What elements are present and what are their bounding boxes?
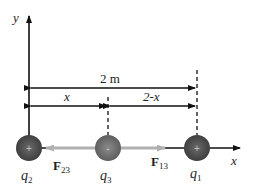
charge-q2-label: q2 [21, 168, 33, 185]
dimension-left: x [31, 89, 106, 106]
charge-q3: - q3 [95, 135, 121, 185]
charge-q3-sign: - [106, 143, 109, 154]
charge-q2-sign: + [26, 143, 32, 154]
charge-q2: + q2 [16, 135, 42, 185]
charge-q1-sign: + [194, 143, 200, 154]
force-F23-label: F23 [53, 158, 70, 175]
dimension-total-label: 2 m [100, 71, 120, 86]
force-F13-label: F13 [151, 154, 168, 171]
charge-q3-label: q3 [100, 168, 112, 185]
y-axis-label: y [11, 10, 19, 25]
force-F23: F23 [46, 148, 96, 175]
charge-q1-label: q1 [190, 166, 202, 183]
dimension-left-label: x [63, 89, 70, 104]
dimension-total: 2 m [31, 71, 195, 88]
charge-q1: + q1 [184, 135, 210, 183]
x-axis-label: x [230, 153, 237, 168]
y-axis: y [11, 10, 29, 148]
dimension-right: 2-x [110, 89, 195, 106]
charge-diagram: y x 2 m x 2-x F23 F13 + q2 - q3 [0, 0, 253, 187]
dimension-right-label: 2-x [143, 89, 160, 104]
force-F13: F13 [120, 148, 168, 171]
